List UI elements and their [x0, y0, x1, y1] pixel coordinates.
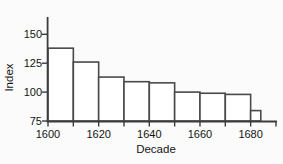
- x-tick-label: 1680: [234, 128, 268, 140]
- x-axis-title: Decade: [116, 143, 196, 156]
- bar: [251, 111, 261, 121]
- x-tick-label: 1640: [132, 128, 166, 140]
- x-tick-label: 1600: [31, 128, 65, 140]
- y-tick-label: 150: [18, 28, 42, 40]
- bar-chart-figure: Index Decade 751001251501600162016401660…: [0, 0, 283, 164]
- x-tick-label: 1620: [82, 128, 116, 140]
- y-tick-label: 75: [18, 115, 42, 127]
- y-tick-label: 125: [18, 57, 42, 69]
- bar: [99, 77, 124, 121]
- x-tick-label: 1660: [183, 128, 217, 140]
- bar: [225, 94, 250, 121]
- y-tick-label: 100: [18, 86, 42, 98]
- bar: [124, 82, 149, 121]
- bar: [175, 92, 200, 121]
- y-axis-title: Index: [3, 48, 16, 108]
- bar: [48, 48, 73, 121]
- bar: [200, 93, 225, 121]
- bar: [73, 62, 98, 121]
- bar: [149, 83, 174, 121]
